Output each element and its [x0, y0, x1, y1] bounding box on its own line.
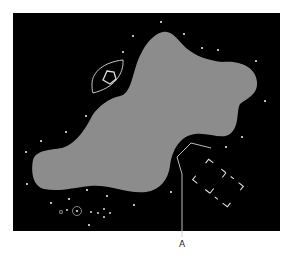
star-dot	[264, 100, 266, 102]
star-dot	[68, 198, 70, 200]
star-dot	[241, 136, 243, 138]
diagram-canvas: A	[0, 0, 292, 261]
star-dot	[183, 33, 185, 35]
circled-star-dot	[76, 210, 78, 212]
star-dot	[217, 49, 219, 51]
star-dot	[50, 202, 52, 204]
star-dot	[106, 195, 108, 197]
star-dot	[26, 183, 28, 185]
star-dot	[255, 60, 257, 62]
star-dot	[86, 189, 88, 191]
star-dot	[160, 21, 162, 23]
star-dot	[25, 151, 27, 153]
star-dot	[170, 191, 172, 193]
star-dot	[88, 224, 90, 226]
label-a: A	[179, 239, 186, 249]
star-dot	[132, 35, 134, 37]
star-dot	[85, 115, 87, 117]
star-dot	[65, 131, 67, 133]
star-dot	[133, 204, 135, 206]
star-dot	[225, 146, 227, 148]
star-dot	[122, 51, 124, 53]
star-dot	[40, 140, 42, 142]
star-dot	[201, 47, 203, 49]
